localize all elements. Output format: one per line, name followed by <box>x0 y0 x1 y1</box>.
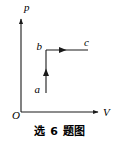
figure-container: p V O a b c 选 6 题图 <box>0 0 120 145</box>
figure-caption: 选 6 题图 <box>0 124 120 140</box>
point-label-c: c <box>84 36 89 48</box>
y-axis-label: p <box>23 1 30 13</box>
process-arrow-bc-icon <box>59 47 67 53</box>
point-label-a: a <box>35 83 41 95</box>
pv-diagram: p V O a b c <box>0 0 120 122</box>
process-arrow-ab-icon <box>43 69 49 77</box>
point-label-b: b <box>37 40 43 52</box>
origin-label: O <box>12 109 20 121</box>
x-axis-label: V <box>103 106 111 118</box>
